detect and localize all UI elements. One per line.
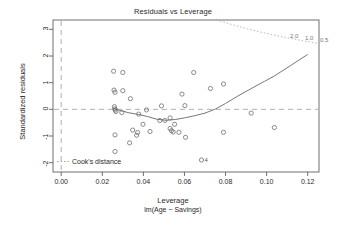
x-axis-sublabel: lm(Age ~ Savings) (0, 206, 346, 213)
data-point (199, 158, 203, 162)
data-point (208, 86, 212, 90)
data-point (128, 141, 132, 145)
cooks-contour-line (230, 0, 320, 17)
y-tick-label: 3 (42, 27, 49, 49)
lowess-smoother (114, 54, 307, 120)
data-point (177, 130, 181, 134)
x-tick-label: 0.12 (288, 178, 328, 185)
cooks-contour-label: 2.0 (290, 33, 298, 39)
data-point (192, 70, 196, 74)
data-point (141, 122, 145, 126)
y-tick-label: -1 (42, 134, 49, 156)
y-tick-label: 1 (42, 80, 49, 102)
point-label-outlier: 4 (205, 157, 208, 163)
y-tick-label: 0 (42, 107, 49, 129)
plot-frame (53, 20, 319, 172)
cooks-contour-label: 1.0 (305, 35, 313, 41)
data-point (121, 70, 125, 74)
data-point (173, 122, 177, 126)
data-point (128, 97, 132, 101)
data-point (144, 108, 148, 112)
cooks-contour-label: 0.5 (320, 37, 328, 43)
data-point (221, 82, 225, 86)
data-point (158, 118, 162, 122)
x-tick-label: 0.06 (164, 178, 204, 185)
x-tick-label: 0.10 (247, 178, 287, 185)
x-axis-label: Leverage (0, 196, 346, 205)
x-tick-label: 0.04 (123, 178, 163, 185)
x-tick-label: 0.08 (206, 178, 246, 185)
data-point (131, 128, 135, 132)
data-point (272, 125, 276, 129)
data-point (136, 130, 140, 134)
data-point (135, 133, 139, 137)
data-point (159, 104, 163, 108)
y-tick-label: 2 (42, 54, 49, 76)
data-point (113, 133, 117, 137)
data-point (148, 129, 152, 133)
data-point (249, 111, 253, 115)
cooks-distance-contours (153, 0, 320, 199)
data-point (180, 92, 184, 96)
y-tick-label: -2 (42, 160, 49, 182)
data-point (113, 149, 117, 153)
y-axis-label: Standardized residuals (18, 32, 27, 172)
data-point (183, 135, 187, 139)
x-tick-label: 0.02 (82, 178, 122, 185)
residuals-vs-leverage-chart: Residuals vs Leverage Standardized resid… (0, 0, 346, 225)
data-point (121, 89, 125, 93)
data-point (183, 104, 187, 108)
data-point (114, 109, 118, 113)
data-point (112, 69, 116, 73)
legend-label-cooks-distance: Cook's distance (72, 158, 121, 165)
data-point (221, 130, 225, 134)
data-point (168, 116, 172, 120)
